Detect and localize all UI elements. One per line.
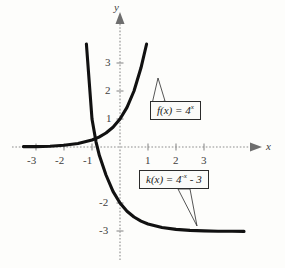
x-axis-label: x	[266, 141, 271, 152]
x-axis-arrow	[250, 143, 262, 152]
x-tick-label-neg3: -3	[27, 155, 36, 166]
y-tick-label-pos2: 2	[105, 85, 111, 96]
y-tick-label-neg3: -3	[99, 225, 108, 236]
y-tick-label-neg2: -2	[99, 197, 108, 208]
graph-canvas	[0, 0, 285, 268]
y-tick-label-pos3: 3	[105, 57, 111, 68]
callout-k-suffix: - 3	[187, 173, 202, 185]
callout-f-text: f(x) = 4	[157, 104, 191, 116]
curve-f	[23, 44, 146, 147]
curve-k	[86, 44, 244, 231]
callout-k-label: k(x) = 4-x - 3	[139, 170, 209, 189]
callout-k-leader	[178, 189, 197, 226]
y-axis-arrow	[116, 12, 125, 24]
y-tick-label-pos1: 1	[106, 113, 112, 124]
x-tick-label-pos1: 1	[145, 155, 151, 166]
callout-f-label: f(x) = 4x	[150, 101, 201, 120]
y-axis-label: y	[114, 2, 119, 13]
x-tick-label-pos3: 3	[201, 155, 207, 166]
callout-f-exponent: x	[191, 103, 194, 111]
x-tick-label-pos2: 2	[173, 155, 179, 166]
x-tick-label-neg1: -1	[83, 155, 92, 166]
exponential-functions-figure: x y -3 -2 -1 1 2 3 1 2 3 -2 -3 f(x) = 4x…	[0, 0, 285, 268]
x-tick-label-neg2: -2	[55, 155, 64, 166]
callout-k-text: k(x) = 4	[146, 173, 182, 185]
